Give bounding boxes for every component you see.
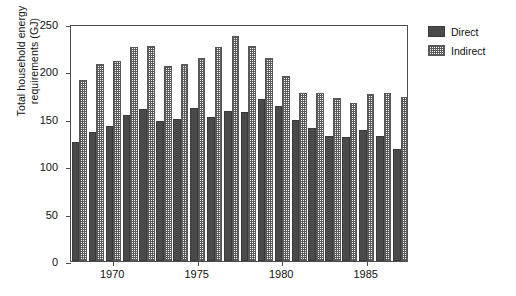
y-axis-tick-labels: 050100150200250 (20, 0, 58, 296)
bar-indirect-1987 (401, 97, 409, 261)
y-tick-mark (66, 263, 71, 264)
bar-indirect-1977 (232, 36, 240, 261)
x-tick-label: 1985 (343, 268, 389, 280)
chart-legend: Direct Indirect (428, 24, 514, 62)
bar-indirect-1973 (164, 66, 172, 261)
bar-direct-1983 (325, 136, 333, 261)
bar-direct-1974 (173, 119, 181, 261)
bar-direct-1980 (275, 106, 283, 261)
bar-indirect-1985 (367, 94, 375, 261)
bar-indirect-1971 (130, 47, 138, 261)
bar-direct-1982 (308, 128, 316, 261)
bar-direct-1979 (258, 99, 266, 261)
y-tick-mark (66, 216, 71, 217)
x-tick-mark (367, 261, 368, 266)
y-tick-mark (66, 121, 71, 122)
bar-indirect-1976 (215, 47, 223, 261)
x-tick-mark (113, 261, 114, 266)
legend-swatch-direct-icon (428, 26, 445, 37)
x-tick-label: 1975 (174, 268, 220, 280)
x-tick-label: 1980 (258, 268, 304, 280)
legend-swatch-indirect-icon (428, 45, 445, 56)
bar-indirect-1981 (299, 93, 307, 261)
bar-direct-1973 (156, 121, 164, 261)
bar-direct-1970 (106, 126, 114, 261)
y-tick-mark (66, 73, 71, 74)
y-tick-label: 250 (24, 19, 58, 31)
bar-indirect-1983 (333, 98, 341, 261)
bar-indirect-1980 (282, 76, 290, 261)
y-tick-label: 50 (24, 209, 58, 221)
bar-direct-1975 (190, 108, 198, 261)
plot-area (70, 25, 408, 262)
bar-direct-1987 (393, 149, 401, 261)
bar-indirect-1986 (384, 93, 392, 261)
bar-indirect-1984 (350, 103, 358, 261)
bar-indirect-1974 (181, 64, 189, 261)
bar-direct-1981 (292, 120, 300, 261)
bar-series-container (71, 26, 407, 261)
bar-indirect-1979 (265, 58, 273, 261)
x-tick-mark (198, 261, 199, 266)
x-tick-mark (282, 261, 283, 266)
bar-indirect-1975 (198, 58, 206, 261)
bar-direct-1977 (224, 111, 232, 261)
y-tick-label: 150 (24, 114, 58, 126)
bar-direct-1985 (359, 130, 367, 261)
y-tick-mark (66, 26, 71, 27)
bar-direct-1986 (376, 136, 384, 261)
y-tick-label: 0 (24, 256, 58, 268)
bar-indirect-1969 (96, 64, 104, 261)
bar-direct-1972 (139, 109, 147, 261)
bar-direct-1971 (123, 115, 131, 261)
legend-label-direct: Direct (451, 26, 478, 38)
y-tick-label: 200 (24, 66, 58, 78)
y-tick-mark (66, 168, 71, 169)
x-tick-label: 1970 (89, 268, 135, 280)
legend-label-indirect: Indirect (451, 45, 485, 57)
legend-item-direct: Direct (428, 24, 514, 39)
y-tick-label: 100 (24, 161, 58, 173)
legend-item-indirect: Indirect (428, 43, 514, 58)
bar-indirect-1982 (316, 93, 324, 261)
bar-indirect-1970 (113, 61, 121, 261)
chart-figure: Total household energy requirements (GJ)… (0, 0, 516, 296)
bar-direct-1968 (72, 142, 80, 261)
bar-indirect-1978 (248, 46, 256, 261)
bar-indirect-1968 (79, 80, 87, 261)
bar-direct-1976 (207, 117, 215, 261)
bar-direct-1969 (89, 132, 97, 261)
bar-direct-1984 (342, 137, 350, 261)
bar-indirect-1972 (147, 46, 155, 261)
bar-direct-1978 (241, 112, 249, 261)
